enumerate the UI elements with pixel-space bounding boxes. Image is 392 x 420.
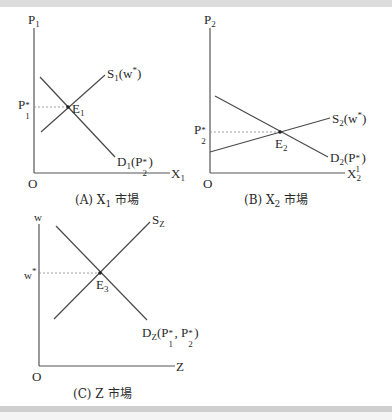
panel-a-supply-label: S1(w*): [107, 66, 141, 83]
panel-b-origin-label: O: [203, 177, 212, 190]
panel-a-origin-label: O: [28, 177, 37, 190]
panel-a-equilibrium-point: [66, 105, 70, 109]
panel-c-y-axis-label: w: [34, 212, 42, 223]
panel-c-x-axis-label: Z: [176, 360, 184, 373]
panel-b-price-label: P*2: [194, 123, 207, 136]
panel-a-equilibrium-label: E1: [72, 102, 84, 118]
panel-c-supply-label: SZ: [152, 213, 165, 229]
diagram-lines: [0, 0, 392, 420]
panel-b-equilibrium-label: E2: [275, 137, 287, 153]
panel-c-supply-curve: [54, 222, 150, 319]
bottom-cropped-text-strip: [0, 412, 392, 420]
panel-b-demand-label: D2(P*1): [330, 151, 366, 167]
panel-b-supply-label: S2(w*): [332, 111, 366, 128]
panel-c-caption: (C) Z 市場: [73, 384, 132, 401]
panel-b-y-axis-label: P2: [204, 13, 216, 29]
panel-a-price-label: P*1: [18, 98, 31, 111]
panel-b-demand-curve: [215, 96, 328, 157]
panel-a-caption: (A) X1 市場: [75, 190, 139, 209]
panel-a-demand-label: D1(P*2): [117, 155, 153, 171]
panel-a-x-axis-label: X1: [171, 167, 185, 183]
panel-b-caption: (B) X2 市場: [244, 190, 308, 209]
panel-c-origin-label: O: [32, 370, 41, 383]
panel-c-equilibrium-point: [98, 271, 102, 275]
panel-c-price-label: w*: [24, 267, 36, 281]
panel-c-equilibrium-label: E3: [96, 278, 108, 294]
panel-b-equilibrium-point: [278, 130, 282, 134]
panel-b-supply-curve: [210, 118, 330, 152]
panel-a-graphics: [34, 28, 170, 173]
panel-c-graphics: [39, 222, 175, 366]
panel-a-y-axis-label: P1: [28, 13, 40, 29]
panel-c-demand-label: DZ(P*1, P*2): [142, 326, 199, 342]
